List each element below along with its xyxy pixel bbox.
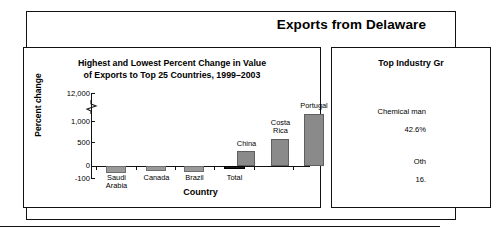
bar-canada[interactable] — [146, 166, 166, 171]
pie-label-chemical: Chemical man 42.6% — [332, 98, 426, 134]
bar-label-costa-rica: Costa Rica — [258, 119, 303, 136]
page-title: Exports from Delaware — [200, 17, 426, 35]
pie-label-chemical-name: Chemical man — [377, 107, 426, 116]
y-tick-label-12000: 12,000 — [44, 89, 90, 98]
pie-label-other-name: Oth — [414, 157, 426, 166]
bar-label-canada: Canada — [134, 174, 179, 182]
industry-pie-title-text: Top Industry Gr — [378, 58, 443, 68]
y-tick-label-0: 0 — [44, 161, 90, 170]
pie-label-chemical-value: 42.6% — [404, 125, 426, 134]
x-axis-label: Country — [91, 187, 310, 197]
bar-brazil[interactable] — [184, 166, 204, 172]
bar-series: Saudi Arabia Canada Brazil Total China C… — [91, 48, 310, 209]
pie-label-other-value: 16. — [415, 175, 426, 184]
bar-chart-panel: Highest and Lowest Percent Change in Val… — [23, 47, 321, 208]
y-tick-label-1000: 1,000 — [44, 117, 90, 126]
industry-pie-panel: Top Industry Gr Chemical man 42.6% Oth 1… — [331, 47, 491, 208]
page-title-text: Exports from Delaware — [277, 17, 426, 32]
bar-china[interactable] — [237, 151, 255, 166]
pie-label-other: Oth 16. — [332, 148, 426, 184]
page-bottom-rule — [0, 226, 440, 227]
x-tick-mark-6 — [293, 166, 294, 170]
bar-total[interactable] — [224, 166, 245, 169]
y-tick-label-neg100: -100 — [44, 174, 90, 183]
bar-costa-rica[interactable] — [271, 139, 289, 166]
x-tick-mark-5 — [254, 166, 255, 170]
bar-chart: Percent change 12,000 1,000 500 0 -100 — [24, 48, 322, 209]
bar-label-total: Total — [214, 174, 255, 182]
x-tick-mark-1 — [96, 166, 97, 170]
x-tick-mark-3 — [175, 166, 176, 170]
bar-label-china: China — [224, 140, 269, 148]
bar-portugal[interactable] — [304, 114, 324, 166]
bar-label-brazil: Brazil — [174, 174, 215, 182]
x-tick-mark-2 — [136, 166, 137, 170]
y-axis-ticks: 12,000 1,000 500 0 -100 — [24, 48, 90, 209]
y-tick-label-500: 500 — [44, 138, 90, 147]
x-tick-mark-4 — [214, 166, 215, 170]
industry-pie-title: Top Industry Gr — [332, 57, 490, 69]
bar-saudi-arabia[interactable] — [106, 166, 126, 173]
